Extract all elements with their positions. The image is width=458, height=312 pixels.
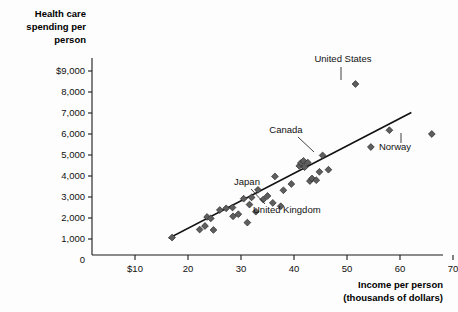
annotation-leader-line [298, 137, 314, 152]
y-tick-label: 6,000 [61, 128, 85, 139]
data-point-marker [367, 144, 374, 151]
data-point-marker [280, 187, 287, 194]
y-tick-label: 2,000 [61, 212, 85, 223]
y-axis-title-line2: spending per [26, 21, 86, 32]
data-point-marker [288, 181, 295, 188]
y-tick-label: 3,000 [61, 191, 85, 202]
annotation-label: United States [314, 53, 371, 64]
data-points-group [169, 81, 436, 241]
data-point-marker [428, 131, 435, 138]
x-tick-label: 40 [289, 263, 300, 274]
x-axis-title-line2: (thousands of dollars) [343, 292, 443, 303]
y-axis-ticks: $9,0008,0007,0006,0005,0004,0003,0002,00… [56, 65, 92, 265]
data-point-marker [202, 223, 209, 230]
y-tick-label: 7,000 [61, 107, 85, 118]
x-tick-label: 20 [183, 263, 194, 274]
axes-group [92, 58, 443, 255]
scatter-plot: $9,0008,0007,0006,0005,0004,0003,0002,00… [0, 0, 458, 312]
x-tick-label: 50 [342, 263, 353, 274]
y-tick-label: 1,000 [61, 233, 85, 244]
x-axis-title-line1: Income per person [358, 279, 443, 290]
annotation-label: Norway [379, 141, 411, 152]
annotation-label: United Kingdom [253, 204, 321, 215]
x-tick-label: 30 [236, 263, 247, 274]
x-axis-ticks: $10203040506070 [127, 255, 458, 274]
annotation-label: Japan [234, 176, 260, 187]
data-point-marker [352, 81, 359, 88]
x-tick-label: 60 [395, 263, 406, 274]
y-axis-title: Health care spending per person [26, 8, 86, 45]
x-tick-label: 70 [448, 263, 458, 274]
data-point-marker [229, 204, 236, 211]
data-point-marker [325, 166, 332, 173]
x-axis-title: Income per person (thousands of dollars) [343, 279, 443, 303]
y-tick-label: 0 [80, 254, 85, 265]
y-tick-label: 5,000 [61, 149, 85, 160]
chart-figure: $9,0008,0007,0006,0005,0004,0003,0002,00… [0, 0, 458, 312]
data-point-marker [255, 186, 262, 193]
data-point-marker [210, 227, 217, 234]
data-point-marker [196, 226, 203, 233]
x-tick-label: $10 [127, 263, 143, 274]
data-point-marker [272, 173, 279, 180]
data-point-marker [316, 168, 323, 175]
y-axis-title-line3: person [54, 34, 86, 45]
data-point-marker [244, 219, 251, 226]
y-tick-label: 8,000 [61, 86, 85, 97]
y-tick-label: 4,000 [61, 170, 85, 181]
data-point-marker [386, 127, 393, 134]
y-axis-title-line1: Health care [35, 8, 86, 19]
y-tick-label: $9,000 [56, 65, 85, 76]
data-point-marker [246, 201, 253, 208]
annotation-label: Canada [269, 124, 303, 135]
